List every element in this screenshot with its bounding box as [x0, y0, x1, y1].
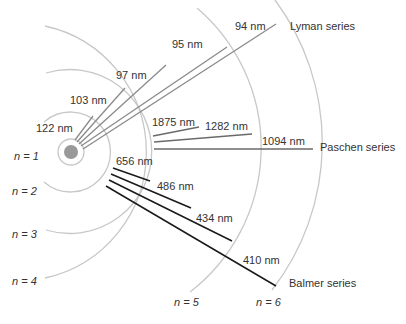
bohr-model-diagram: 122 nm 103 nm 97 nm 95 nm 94 nm Lyman se…: [0, 0, 406, 324]
balmer-label-410: 410 nm: [243, 254, 280, 266]
balmer-label-434: 434 nm: [196, 212, 233, 224]
lyman-label-97: 97 nm: [116, 69, 147, 81]
lyman-label-103: 103 nm: [70, 94, 107, 106]
paschen-label-1282: 1282 nm: [205, 120, 248, 132]
orbit-label-n3: n = 3: [12, 228, 38, 240]
lyman-series-label: Lyman series: [290, 20, 356, 32]
orbit-label-n2: n = 2: [12, 185, 37, 197]
lyman-label-94: 94 nm: [235, 20, 266, 32]
lyman-label-95: 95 nm: [172, 38, 203, 50]
orbit-n4: [45, 26, 146, 278]
orbit-label-n6: n = 6: [256, 296, 282, 308]
balmer-label-656: 656 nm: [116, 155, 153, 167]
balmer-label-486: 486 nm: [157, 180, 194, 192]
balmer-series-label: Balmer series: [289, 277, 357, 289]
orbit-label-n4: n = 4: [12, 275, 37, 287]
paschen-label-1875: 1875 nm: [152, 116, 195, 128]
balmer-line-410: [106, 186, 276, 286]
nucleus: [64, 145, 78, 159]
lyman-label-122: 122 nm: [36, 122, 73, 134]
orbit-label-n1: n = 1: [14, 150, 39, 162]
paschen-line-1875: [153, 127, 199, 136]
paschen-line-1282: [154, 134, 252, 142]
paschen-series-label: Paschen series: [320, 141, 396, 153]
orbit-label-n5: n = 5: [174, 296, 200, 308]
orbit-n5: [190, 8, 261, 292]
paschen-label-1094: 1094 nm: [262, 135, 305, 147]
